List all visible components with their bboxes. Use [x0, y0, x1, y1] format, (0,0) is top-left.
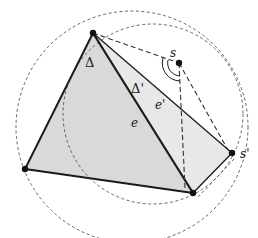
vertex-A	[90, 30, 96, 36]
point-s-prime	[229, 150, 235, 156]
label-delta: Δ	[85, 56, 94, 69]
vertex-B	[22, 166, 28, 172]
triangulation-diagram	[0, 0, 258, 238]
vertex-C	[190, 190, 196, 196]
label-e-prime: e'	[155, 99, 165, 111]
label-e: e	[131, 117, 138, 129]
point-s	[176, 60, 182, 66]
label-s: s	[170, 47, 176, 59]
label-s-prime: s'	[240, 148, 249, 160]
label-delta-prime: Δ'	[131, 82, 144, 95]
